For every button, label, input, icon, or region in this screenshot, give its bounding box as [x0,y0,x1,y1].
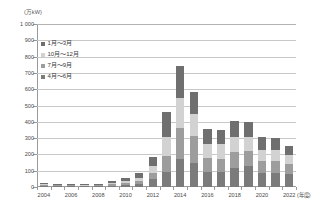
x-axis-tick-mark [105,187,106,190]
bar-segment[interactable] [176,128,184,159]
bar-group[interactable] [203,129,211,188]
bar-group[interactable] [217,130,225,188]
bar-group[interactable] [67,184,75,187]
bar-segment[interactable] [230,137,238,152]
bar-segment[interactable] [162,137,170,156]
bar-group[interactable] [135,173,143,187]
bar-segment[interactable] [285,174,293,187]
bar-segment[interactable] [67,186,75,187]
bar-segment[interactable] [203,172,211,187]
bar-segment[interactable] [190,114,198,136]
bar-segment[interactable] [244,122,252,137]
bar-segment[interactable] [244,151,252,166]
y-axis-tick-label: 900 [0,37,34,43]
bar-segment[interactable] [176,66,184,98]
bar-segment[interactable] [162,156,170,172]
bar-group[interactable] [80,184,88,187]
x-axis-tick-label: 2010 [114,192,138,199]
x-axis-tick-mark [187,187,188,190]
bar-segment[interactable] [258,173,266,187]
bar-group[interactable] [230,121,238,187]
bar-segment[interactable] [176,159,184,187]
legend-label: 1月～3月 [48,40,73,47]
y-axis-tick-label: 700 [0,70,34,76]
bar-segment[interactable] [190,163,198,187]
legend-swatch-icon [41,64,45,68]
bar-segment[interactable] [285,146,293,154]
x-axis-unit-label: (年度) [297,192,311,199]
bar-segment[interactable] [190,136,198,162]
x-axis-tick-mark [146,187,147,190]
bar-group[interactable] [53,184,61,187]
legend-swatch-icon [41,53,45,57]
bar-segment[interactable] [94,186,102,187]
bar-group[interactable] [108,181,116,187]
bar-segment[interactable] [149,157,157,166]
bar-segment[interactable] [230,152,238,168]
bar-segment[interactable] [40,186,48,187]
bar-group[interactable] [149,157,157,187]
legend-swatch-icon [41,75,45,79]
bar-group[interactable] [285,146,293,187]
bar-segment[interactable] [217,144,225,158]
bar-segment[interactable] [258,150,266,161]
bar-group[interactable] [40,183,48,187]
y-axis-unit-label: (万kW) [24,9,42,16]
bar-segment[interactable] [217,130,225,145]
bar-segment[interactable] [230,121,238,137]
bar-segment[interactable] [258,137,266,150]
bar-group[interactable] [162,112,170,187]
bar-segment[interactable] [271,150,279,161]
bar-group[interactable] [121,178,129,187]
legend-swatch-icon [41,42,45,46]
bar-segment[interactable] [203,144,211,158]
bar-segment[interactable] [285,164,293,174]
bar-group[interactable] [271,138,279,187]
y-axis-tick-label: 200 [0,151,34,157]
bar-segment[interactable] [80,186,88,187]
bar-segment[interactable] [203,158,211,171]
x-axis-tick-mark [228,187,229,190]
legend-item[interactable]: 4月～6月 [41,71,79,82]
y-axis-tick-label: 400 [0,119,34,125]
x-axis-tick-mark [78,187,79,190]
bar-group[interactable] [190,92,198,187]
x-axis-tick-mark [132,187,133,190]
x-axis-tick-mark [92,187,93,190]
bar-group[interactable] [258,137,266,187]
stacked-bar-chart: (万kW) 1 0009008007006005004003002001000 … [0,0,319,216]
legend-item[interactable]: 7月～9月 [41,60,79,71]
bar-segment[interactable] [244,137,252,151]
bar-segment[interactable] [108,186,116,187]
bar-segment[interactable] [217,172,225,187]
bar-segment[interactable] [121,185,129,187]
y-axis-tick-label: 1 000 [0,21,34,27]
legend-label: 7月～9月 [48,62,73,69]
bar-segment[interactable] [271,173,279,187]
bar-group[interactable] [244,122,252,187]
x-axis-tick-label: 2008 [86,192,110,199]
legend-item[interactable]: 1月～3月 [41,38,79,49]
bar-segment[interactable] [203,129,211,145]
x-axis-tick-label: 2016 [195,192,219,199]
bar-segment[interactable] [217,159,225,173]
bar-segment[interactable] [190,92,198,115]
bar-segment[interactable] [135,184,143,187]
x-axis-tick-label: 2012 [141,192,165,199]
bar-segment[interactable] [285,155,293,164]
legend-item[interactable]: 10月～12月 [41,49,79,60]
bar-segment[interactable] [244,166,252,187]
bar-group[interactable] [94,184,102,187]
bar-segment[interactable] [149,179,157,187]
bar-segment[interactable] [230,168,238,187]
bar-segment[interactable] [271,138,279,150]
x-axis-tick-mark [51,187,52,190]
bar-segment[interactable] [271,161,279,172]
bar-segment[interactable] [162,172,170,187]
bar-segment[interactable] [162,112,170,137]
x-axis-tick-mark [160,187,161,190]
bar-segment[interactable] [53,186,61,187]
bar-segment[interactable] [258,161,266,173]
bar-group[interactable] [176,66,184,187]
bar-segment[interactable] [176,98,184,128]
